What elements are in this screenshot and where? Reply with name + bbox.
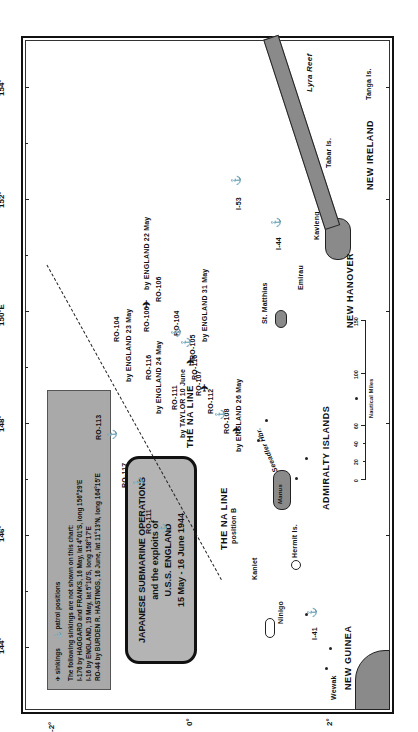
sub-label: RO-117	[121, 463, 128, 488]
scale-tick: 0	[353, 479, 359, 482]
sub-label: I-44	[275, 237, 282, 250]
longitude-label: 146°	[0, 525, 6, 542]
place-manus: Manus	[277, 484, 283, 504]
na-line-label: THE NA LINE	[185, 385, 195, 448]
place-tanga: Tanga Is.	[365, 68, 372, 100]
scale-tick: 20	[353, 459, 359, 465]
na-line-position-b: position B	[230, 508, 237, 544]
hermit-island	[291, 560, 301, 570]
title-line: U.S.S. ENGLAND	[162, 459, 175, 661]
scale-tick: 150	[353, 317, 359, 326]
longitude-label: 148°	[0, 415, 6, 432]
longitude-label: 154°	[0, 79, 6, 96]
sinking-icon: ✈	[199, 384, 210, 392]
patrol-icon: ⚓	[171, 327, 181, 338]
patrol-icon: ⚓	[215, 409, 225, 420]
longitude-label: 152°	[0, 191, 6, 208]
sub-label: RO-106	[143, 306, 150, 332]
sub-label: RO-112	[207, 389, 214, 414]
legend-sinkings: sinkings	[54, 648, 61, 674]
patrol-icon: ⚓	[133, 477, 143, 488]
legend-note: RO-44 by BURDEN R. HASTINGS, 16 June, la…	[93, 399, 102, 681]
place-admiralty: ADMIRALTY ISLANDS	[321, 406, 331, 510]
sub-note: by ENGLAND 23 May	[125, 309, 132, 382]
legend-note-heading: The following sinkings are not shown on …	[66, 399, 75, 681]
sub-note: by ENGLAND 22 May	[143, 217, 150, 290]
place-st-matthias: St. Matthias	[261, 282, 268, 324]
st-matthias-island	[275, 310, 287, 328]
place-kavieng: Kavieng	[313, 211, 320, 240]
scale-bar: 0 20 40 60 100 150 Nautical Miles	[355, 315, 379, 480]
sub-note: by ENGLAND 24 May	[155, 341, 162, 414]
sub-label: RO-111	[171, 385, 178, 410]
place-emirau: Emirau	[297, 265, 304, 290]
longitude-label: 144°	[0, 637, 6, 654]
sub-note: by ENGLAND 26 May	[235, 379, 242, 452]
sinking-icon: ✈	[185, 358, 196, 366]
sub-note: by TAYLOR 10 June	[179, 369, 186, 438]
place-tabar: Tabar Is.	[325, 138, 332, 168]
place-lyra-reef: Lyra Reef	[305, 54, 314, 92]
place-new-ireland: NEW IRELAND	[365, 120, 375, 190]
patrol-icon: ⚓	[307, 607, 317, 618]
sub-label: RO-111	[145, 509, 152, 534]
place-ninigo: Ninigo	[277, 601, 284, 624]
legend-note: I-176 by HAGGARD and FRANKS, 16 May, lat…	[75, 399, 84, 681]
legend-patrol: patrol positions	[54, 582, 61, 630]
patrol-icon: ⚓	[231, 175, 241, 186]
sinking-icon: ✈	[231, 426, 242, 434]
operations-map: 144° 146° 148° 150°E 152° 154° -2° 0° 2°…	[25, 40, 390, 710]
scale-tick: 60	[353, 423, 359, 429]
patrol-icon: ⚓	[157, 523, 167, 534]
scale-title: Nautical Miles	[368, 379, 374, 418]
sinking-icon: ✈	[141, 300, 152, 308]
sub-note: by ENGLAND 31 May	[201, 269, 208, 342]
patrol-icon: ⚓	[107, 429, 117, 440]
sub-label: RO-104	[113, 316, 120, 342]
scale-tick: 40	[353, 441, 359, 447]
title-line: JAPANESE SUBMARINE OPERATIONS	[136, 459, 149, 661]
longitude-label: 150°E	[0, 304, 6, 326]
title-line: 15 May - 16 June 1944	[175, 459, 188, 661]
place-wewak: Wewak	[330, 675, 337, 700]
patrol-icon: ⚓	[271, 217, 281, 228]
sub-label: RO-113	[95, 415, 102, 440]
ninigo-island	[265, 618, 275, 638]
latitude-label: 0°	[185, 718, 194, 726]
sub-label: RO-106	[155, 276, 162, 302]
sub-label: I-41	[311, 627, 318, 640]
patrol-icon: ⚓	[181, 337, 191, 348]
place-kaniet: Kaniet	[251, 557, 258, 580]
place-new-guinea: NEW GUINEA	[343, 626, 353, 691]
patrol-icon: ⚓	[54, 631, 61, 639]
na-line-label-lower: THE NA LINE	[219, 487, 229, 550]
sub-label: I-53	[235, 197, 242, 210]
title-line: and the exploits of	[149, 459, 162, 661]
place-hermit: Hermit Is.	[291, 524, 298, 558]
sinking-icon: ✈	[54, 676, 61, 681]
scale-tick: 100	[353, 370, 359, 379]
latitude-label: -2°	[47, 722, 56, 732]
latitude-label: 2°	[325, 718, 334, 726]
sub-label: RO-116	[145, 355, 152, 380]
legend-note: I-16 by ENGLAND, 19 May, lat 5°10'S, lon…	[84, 399, 93, 681]
